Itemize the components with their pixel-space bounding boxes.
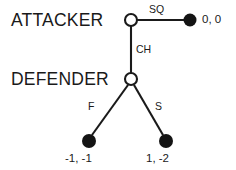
terminal-node-sq (184, 14, 197, 27)
payoff-label-sq: 0, 0 (202, 13, 221, 25)
action-label-ch: CH (136, 43, 151, 55)
attacker-decision-node (125, 14, 137, 26)
action-label-f: F (88, 100, 94, 112)
payoff-label-share: 1, -2 (146, 152, 169, 164)
terminal-node-share (159, 134, 173, 148)
player-label-defender: DEFENDER (11, 69, 109, 90)
player-label-attacker: ATTACKER (11, 10, 103, 31)
edge-f-line (92, 85, 128, 135)
payoff-label-fight: -1, -1 (65, 152, 92, 164)
defender-decision-node (125, 73, 137, 85)
action-label-s: S (155, 100, 162, 112)
action-label-sq: SQ (149, 3, 164, 15)
terminal-node-fight (82, 134, 96, 148)
game-tree-diagram: ATTACKER DEFENDER SQ CH F S 0, 0 -1, -1 … (0, 0, 236, 170)
